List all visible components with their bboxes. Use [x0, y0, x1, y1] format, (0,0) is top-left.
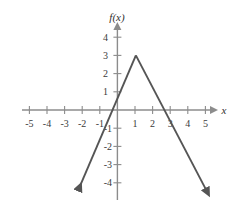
x-tick-label-2: 2 — [150, 118, 155, 129]
x-tick-label--5: -5 — [25, 118, 33, 129]
x-tick-label--2: -2 — [78, 118, 86, 129]
y-tick-label--2: -2 — [104, 141, 112, 152]
y-tick-label-2: 2 — [103, 68, 108, 79]
x-tick-label-4: 4 — [185, 118, 190, 129]
y-tick-label-1: 1 — [103, 86, 108, 97]
x-axis-label: x — [221, 104, 227, 116]
x-axis: -5 -4 -3 -2 -1 1 2 3 4 5 x — [22, 104, 227, 129]
function-graph: -5 -4 -3 -2 -1 1 2 3 4 5 x — [0, 0, 238, 205]
curve-right-branch — [136, 55, 206, 190]
x-tick-label--4: -4 — [43, 118, 51, 129]
x-tick-label-1: 1 — [133, 118, 138, 129]
y-tick-label-4: 4 — [103, 32, 108, 43]
coordinate-plane: -5 -4 -3 -2 -1 1 2 3 4 5 x — [0, 0, 238, 205]
x-tick-label-5: 5 — [203, 118, 208, 129]
y-axis-label: f(x) — [109, 11, 125, 24]
y-tick-label--4: -4 — [104, 177, 112, 188]
y-tick-label-3: 3 — [103, 50, 108, 61]
y-tick-label--3: -3 — [104, 159, 112, 170]
x-tick-label--3: -3 — [60, 118, 68, 129]
